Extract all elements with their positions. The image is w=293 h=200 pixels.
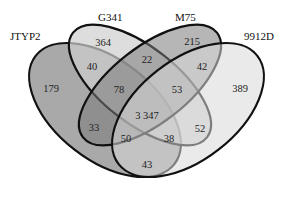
set-label-m75: M75 <box>175 11 196 23</box>
region-jtyp2-g341-9912d: 38 <box>164 133 175 144</box>
region-jtyp2-9912d: 43 <box>142 159 153 170</box>
region-9912d-only: 389 <box>232 83 248 94</box>
region-g341-m75-9912d: 53 <box>172 84 183 95</box>
region-m75-9912d: 42 <box>197 61 208 72</box>
region-jtyp2-m75: 33 <box>89 122 100 133</box>
region-g341-only: 364 <box>95 37 112 48</box>
set-label-g341: G341 <box>98 11 122 23</box>
region-jtyp2-only: 179 <box>43 83 59 94</box>
set-label-9912d: 9912D <box>244 30 274 42</box>
region-jtyp2-m75-9912d: 50 <box>121 133 132 144</box>
region-m75-only: 215 <box>184 36 200 47</box>
region-jtyp2-g341: 40 <box>87 61 98 72</box>
region-g341-m75: 22 <box>142 54 153 65</box>
venn-diagram: JTYP2 G341 M75 9912D 179 364 215 389 40 … <box>0 0 293 200</box>
set-label-jtyp2: JTYP2 <box>10 30 41 42</box>
region-jtyp2-g341-m75: 78 <box>114 84 125 95</box>
region-g341-9912d: 52 <box>195 123 206 134</box>
region-all-four: 3 347 <box>135 110 159 121</box>
